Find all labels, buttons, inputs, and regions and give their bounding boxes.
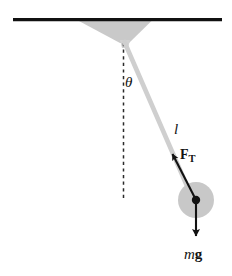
- string-length-label: l: [174, 122, 178, 137]
- pendulum-figure: θ l FT mg: [0, 0, 232, 276]
- tension-symbol: F: [180, 147, 189, 162]
- bob-center-point: [192, 196, 200, 204]
- tension-force-label: FT: [180, 148, 196, 164]
- gravity-symbol: g: [195, 246, 203, 262]
- ceiling-shadow-bracket: [78, 21, 152, 44]
- weight-force-label: mg: [184, 247, 202, 262]
- pendulum-diagram-canvas: [0, 0, 232, 276]
- mass-symbol: m: [184, 246, 195, 262]
- angle-theta-label: θ: [125, 75, 132, 90]
- tension-subscript: T: [189, 153, 196, 164]
